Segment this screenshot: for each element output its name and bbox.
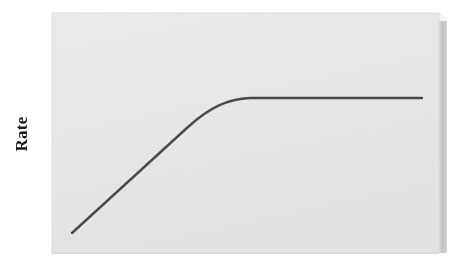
- plot-panel: [50, 11, 448, 259]
- figure-root: Rate: [0, 0, 462, 275]
- panel-face: [52, 13, 439, 253]
- plot-canvas: [50, 11, 448, 259]
- y-axis-label-text: Rate: [12, 116, 32, 151]
- panel-bevel-right: [439, 13, 447, 253]
- y-axis-label: Rate: [0, 95, 44, 173]
